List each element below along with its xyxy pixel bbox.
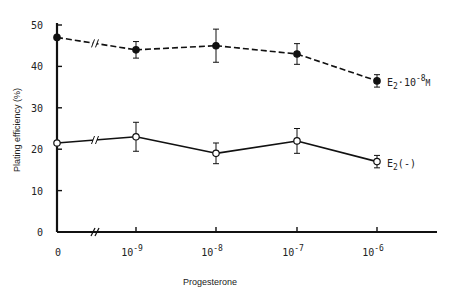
open-circle-marker [213, 150, 219, 156]
series-e2-control [54, 122, 380, 168]
filled-circle-marker [133, 47, 139, 53]
y-tick-label: 50 [31, 20, 43, 31]
series-e2-treated [54, 29, 380, 87]
y-axis: 01020304050 [31, 20, 62, 238]
plating-efficiency-chart: 01020304050 010-910-810-710-6 E2·10-8ME2… [0, 0, 454, 297]
y-tick-label: 20 [31, 144, 43, 155]
x-tick-label: 10-8 [201, 244, 223, 258]
series-line-segment [297, 54, 377, 81]
y-tick-label: 30 [31, 103, 43, 114]
filled-circle-marker [374, 78, 380, 84]
series-layer [54, 29, 380, 168]
series-line-segment [216, 141, 297, 153]
x-tick-label: 10-7 [282, 244, 304, 258]
x-tick-label: 10-6 [362, 244, 384, 258]
line-break-gap [93, 135, 97, 145]
series-labels: E2·10-8ME2(-) [387, 74, 431, 172]
series-line-segment [216, 46, 297, 54]
series-label: E2·10-8M [387, 74, 431, 91]
x-tick-label: 10-9 [121, 244, 143, 258]
series-line-segment [297, 141, 377, 162]
open-circle-marker [133, 134, 139, 140]
y-tick-label: 40 [31, 61, 43, 72]
series-label: E2(-) [387, 158, 416, 172]
series-line-segment [136, 46, 216, 50]
filled-circle-marker [294, 51, 300, 57]
open-circle-marker [294, 138, 300, 144]
filled-circle-marker [213, 43, 219, 49]
x-axis: 010-910-810-710-6 [55, 227, 437, 258]
x-tick-label: 0 [55, 247, 61, 258]
series-line-segment [136, 137, 216, 154]
x-axis-title: Progesterone [183, 277, 237, 287]
open-circle-marker [54, 140, 60, 146]
filled-circle-marker [54, 34, 60, 40]
y-axis-title: Plating efficiency (%) [12, 88, 22, 172]
y-tick-label: 10 [31, 186, 43, 197]
y-tick-label: 0 [37, 227, 43, 238]
open-circle-marker [374, 158, 380, 164]
line-break-gap [93, 38, 97, 48]
